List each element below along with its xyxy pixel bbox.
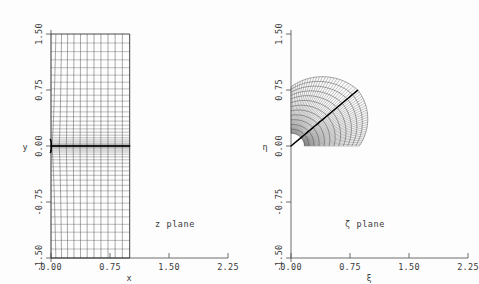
x-tick-label-1: 0.00	[40, 262, 62, 272]
z-plane-x-tick-labels: 0.00 0.75 1.50 2.25	[40, 262, 239, 272]
y-tick-label-4: -0.75	[34, 188, 44, 215]
zeta-plane-eta-tick-labels: 1.50 0.75 0.00 -0.75 -1.50	[274, 23, 284, 271]
z-plane-plate-cut	[50, 140, 129, 153]
panel-z-plane: 1.50 0.75 0.00 -0.75 -1.50 0.00 0.75 1.5…	[0, 0, 239, 284]
eta-tick-label-3: 0.00	[274, 135, 284, 157]
zeta-plane-plot: 1.50 0.75 0.00 -0.75 -1.50 0.00 0.75 1.5…	[240, 0, 479, 284]
xi-tick-label-1: 0.00	[280, 262, 302, 272]
xi-tick-label-4: 2.25	[457, 262, 479, 272]
conformal-mapping-figure: 1.50 0.75 0.00 -0.75 -1.50 0.00 0.75 1.5…	[0, 0, 479, 284]
xi-tick-label-2: 0.75	[339, 262, 361, 272]
eta-axis-title: η	[262, 142, 267, 152]
zeta-plane-xi-tick-labels: 0.00 0.75 1.50 2.25	[280, 262, 479, 272]
x-axis-title: x	[126, 273, 131, 283]
eta-tick-label-1: 1.50	[274, 23, 284, 45]
x-tick-label-4: 2.25	[217, 262, 239, 272]
z-plane-y-tick-labels: 1.50 0.75 0.00 -0.75 -1.50	[34, 23, 44, 271]
eta-tick-label-4: -0.75	[274, 188, 284, 215]
y-axis-title: y	[22, 142, 27, 152]
y-tick-label-2: 0.75	[34, 79, 44, 101]
zeta-plane-annotation: ζ plane	[345, 219, 385, 229]
xi-tick-label-3: 1.50	[398, 262, 420, 272]
x-tick-label-2: 0.75	[99, 262, 121, 272]
y-tick-label-1: 1.50	[34, 23, 44, 45]
y-tick-label-3: 0.00	[34, 135, 44, 157]
panel-zeta-plane: 1.50 0.75 0.00 -0.75 -1.50 0.00 0.75 1.5…	[240, 0, 479, 284]
xi-axis-title: ξ	[366, 273, 371, 283]
z-plane-plot: 1.50 0.75 0.00 -0.75 -1.50 0.00 0.75 1.5…	[0, 0, 239, 284]
eta-tick-label-2: 0.75	[274, 79, 284, 101]
x-tick-label-3: 1.50	[158, 262, 180, 272]
z-plane-annotation: z plane	[155, 219, 195, 229]
